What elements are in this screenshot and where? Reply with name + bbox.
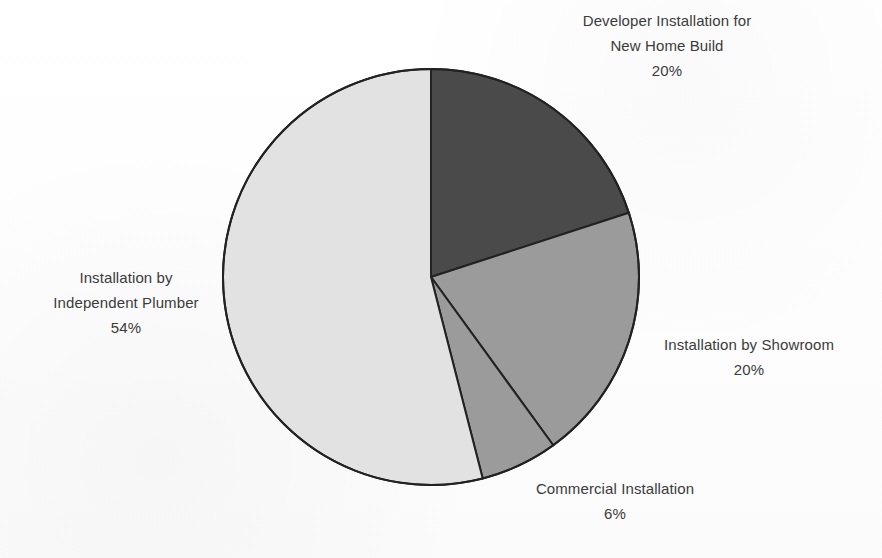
slice-label-developer-line2: New Home Build [525,33,809,58]
slice-label-plumber-percent: 54% [4,315,248,340]
slice-label-developer-line1: Developer Installation for [525,8,809,33]
pie-chart-figure: Developer Installation for New Home Buil… [0,0,882,558]
slice-label-commercial-line1: Commercial Installation [476,476,754,501]
slice-label-showroom-percent: 20% [616,357,882,382]
slice-label-developer: Developer Installation for New Home Buil… [525,8,809,83]
slice-label-showroom: Installation by Showroom 20% [616,332,882,382]
slice-label-developer-percent: 20% [525,58,809,83]
slice-label-showroom-line1: Installation by Showroom [616,332,882,357]
slice-label-commercial-percent: 6% [476,501,754,526]
slice-label-plumber-line2: Independent Plumber [4,290,248,315]
slice-label-independent-plumber: Installation by Independent Plumber 54% [4,265,248,340]
pie-slice-group [223,69,639,485]
slice-label-plumber-line1: Installation by [4,265,248,290]
slice-label-commercial: Commercial Installation 6% [476,476,754,526]
